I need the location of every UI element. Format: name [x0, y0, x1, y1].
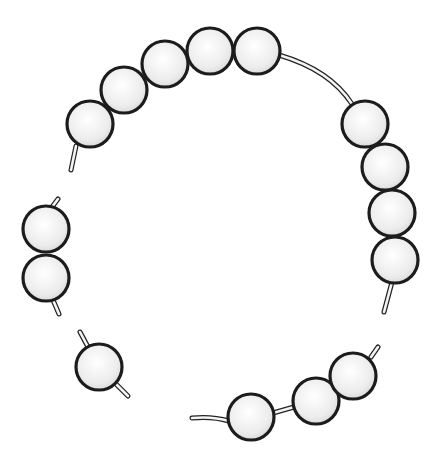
bead	[362, 144, 408, 190]
string-core	[116, 384, 128, 396]
segment-bottom-arc	[228, 353, 376, 440]
segment-main-arc	[67, 28, 418, 283]
necklace-canvas	[0, 0, 439, 469]
string-core	[279, 55, 352, 104]
segment-left-pair	[23, 206, 69, 301]
bead	[67, 101, 113, 147]
bead	[234, 28, 280, 74]
beads-layer	[23, 28, 418, 440]
bead	[101, 67, 147, 113]
bead	[372, 237, 418, 283]
segment-single-bead	[76, 344, 122, 390]
bead	[23, 255, 69, 301]
bead	[187, 28, 233, 74]
string-outline	[279, 55, 352, 104]
bead-necklace-figure	[0, 0, 439, 469]
bead	[23, 206, 69, 252]
bead	[330, 353, 376, 399]
string-core	[384, 282, 392, 312]
bead	[369, 190, 415, 236]
bead	[142, 41, 188, 87]
bead	[228, 394, 274, 440]
bead	[76, 344, 122, 390]
bead	[342, 101, 388, 147]
